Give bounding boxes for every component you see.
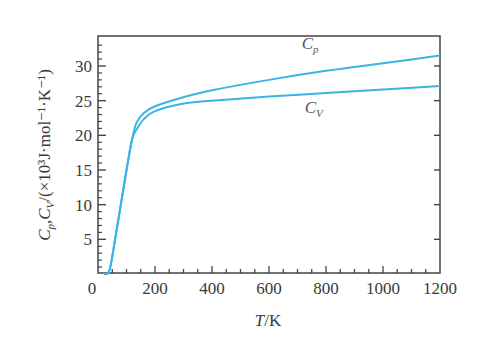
series-labels: CpCV <box>302 34 324 119</box>
series-label-cv: CV <box>305 98 324 119</box>
x-tick-label: 1000 <box>366 279 400 298</box>
x-tick-label: 800 <box>313 279 339 298</box>
y-axis-unit: /(×10³J·mol⁻¹·K⁻¹) <box>35 69 54 202</box>
chart: 510152025300 20040060080010001200 CpCV T… <box>0 0 481 342</box>
y-tick-label: 5 <box>84 230 93 249</box>
x-tick-label: 400 <box>199 279 225 298</box>
y-axis-cp-main: C <box>35 229 54 241</box>
x-ticks <box>112 266 426 273</box>
y-tick-label: 20 <box>75 126 92 145</box>
x-tick-label: 1200 <box>423 279 457 298</box>
y-axis-cv-main: ,C <box>35 208 54 224</box>
series-label-cp: Cp <box>302 34 319 55</box>
y-tick-label: 10 <box>75 196 92 215</box>
series-lines <box>104 56 440 275</box>
x-tick-label: 200 <box>142 279 168 298</box>
origin-label: 0 <box>88 279 97 298</box>
x-axis-title: T/K <box>255 311 282 330</box>
x-tick-labels: 20040060080010001200 <box>142 279 457 298</box>
series-line-cv <box>104 86 440 274</box>
y-tick-label: 30 <box>75 57 92 76</box>
x-tick-label: 600 <box>256 279 282 298</box>
y-tick-labels: 510152025300 <box>75 57 96 298</box>
x-axis-unit: /K <box>264 311 282 330</box>
y-major-ticks <box>98 66 440 239</box>
y-tick-label: 15 <box>75 161 92 180</box>
plot-frame <box>98 36 440 273</box>
y-axis-title: Cp,CV/(×10³J·mol⁻¹·K⁻¹) <box>35 69 56 241</box>
y-tick-label: 25 <box>75 92 92 111</box>
